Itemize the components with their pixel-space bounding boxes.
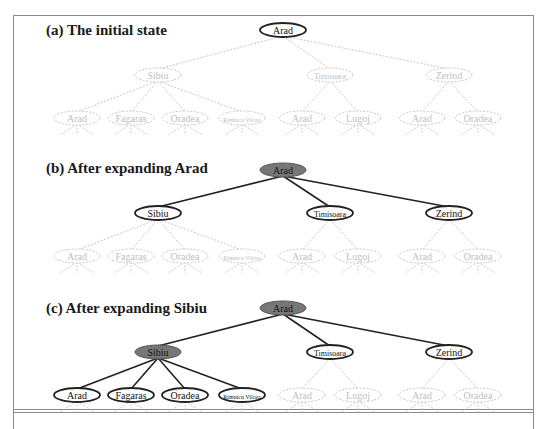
node-label: Zerind (436, 347, 463, 358)
tree-edge (302, 219, 330, 250)
tree-edge (158, 314, 283, 346)
tree-edge (341, 124, 358, 135)
node-label: Zerind (436, 208, 463, 219)
node-label: Oradea (171, 390, 200, 401)
tree-edge (168, 124, 185, 135)
tree-edge (405, 401, 422, 412)
node-zerind-oradea: Oradea (455, 388, 501, 402)
tree-edge (285, 401, 302, 412)
tree-edge (330, 358, 358, 389)
node-sibiu-arad: Arad (54, 249, 100, 263)
tree-edge (341, 262, 358, 273)
tree-edge (242, 262, 259, 273)
tree-edge (461, 401, 478, 412)
node-label: Oradea (171, 113, 200, 124)
tree-edge (302, 262, 319, 273)
node-sibiu-rimnicu-vilcea: Rimnicu Vilcea (219, 111, 265, 125)
tree-edge (225, 262, 242, 273)
node-label: Timisoara (314, 72, 347, 81)
node-label: Arad (273, 303, 293, 314)
tree-edge (461, 124, 478, 135)
node-label: Arad (412, 113, 432, 124)
tree-edge (405, 262, 422, 273)
node-label: Rimnicu Vilcea (223, 394, 261, 400)
node-label: Arad (292, 390, 312, 401)
node-zerind: Zerind (426, 68, 472, 82)
tree-edge (77, 219, 158, 250)
node-zerind: Zerind (426, 345, 472, 359)
node-zerind: Zerind (426, 206, 472, 220)
tree-edge (302, 401, 319, 412)
tree-edge (330, 219, 358, 250)
node-sibiu-arad: Arad (54, 111, 100, 125)
tree-edge (168, 262, 185, 273)
node-zerind-arad: Arad (399, 388, 445, 402)
tree-edge (158, 36, 283, 69)
node-sibiu-fagaras: Fagaras (108, 111, 154, 125)
node-label: Lugoj (346, 251, 370, 262)
node-timisoara-lugoj: Lugoj (335, 249, 381, 263)
node-label: Lugoj (346, 390, 370, 401)
node-sibiu: Sibiu (135, 345, 181, 359)
panel-b-tree: AradSibiuAradFagarasOradeaRimnicu Vilcea… (54, 163, 501, 273)
tree-edge (158, 176, 283, 207)
node-label: Timisoara (314, 210, 347, 219)
node-label: Fagaras (115, 390, 146, 401)
node-label: Sibiu (147, 347, 168, 358)
tree-edge (285, 262, 302, 273)
node-sibiu: Sibiu (135, 206, 181, 220)
tree-edge (478, 262, 495, 273)
tree-edge (302, 124, 319, 135)
tree-edge (422, 358, 449, 389)
node-root-arad: Arad (260, 163, 306, 177)
node-label: Arad (292, 113, 312, 124)
tree-edge (478, 124, 495, 135)
node-label: Arad (67, 390, 87, 401)
tree-edge (283, 36, 449, 69)
tree-edge (449, 358, 478, 389)
tree-edge (358, 401, 375, 412)
node-label: Oradea (464, 390, 493, 401)
tree-edge (422, 124, 439, 135)
node-sibiu-fagaras: Fagaras (108, 388, 154, 402)
tree-edge (422, 81, 449, 112)
node-sibiu-oradea: Oradea (162, 249, 208, 263)
tree-edge (358, 124, 375, 135)
tree-edge (449, 219, 478, 250)
node-root-arad: Arad (260, 301, 306, 315)
node-sibiu-oradea: Oradea (162, 388, 208, 402)
node-label: Zerind (436, 70, 463, 81)
tree-edge (302, 81, 330, 112)
tree-edge (285, 124, 302, 135)
node-label: Arad (412, 251, 432, 262)
node-label: Fagaras (115, 113, 146, 124)
tree-edge (60, 124, 77, 135)
tree-edge (114, 262, 131, 273)
tree-edge (77, 81, 158, 112)
tree-edge (242, 124, 259, 135)
node-timisoara-arad: Arad (279, 249, 325, 263)
node-sibiu-arad: Arad (54, 388, 100, 402)
tree-edge (283, 36, 330, 69)
node-timisoara: Timisoara (307, 345, 353, 359)
tree-edge (422, 401, 439, 412)
node-label: Sibiu (147, 70, 168, 81)
node-zerind-oradea: Oradea (455, 249, 501, 263)
node-label: Arad (67, 251, 87, 262)
tree-edge (158, 81, 242, 112)
node-sibiu-oradea: Oradea (162, 111, 208, 125)
node-zerind-arad: Arad (399, 249, 445, 263)
tree-edge (225, 124, 242, 135)
node-label: Oradea (171, 251, 200, 262)
tree-edge (341, 401, 358, 412)
node-zerind-arad: Arad (399, 111, 445, 125)
node-label: Arad (273, 165, 293, 176)
node-label: Oradea (464, 251, 493, 262)
tree-edge (77, 358, 158, 389)
tree-edge (358, 262, 375, 273)
node-label: Fagaras (115, 251, 146, 262)
tree-edge (478, 401, 495, 412)
node-timisoara: Timisoara (307, 68, 353, 82)
node-timisoara-arad: Arad (279, 111, 325, 125)
node-label: Oradea (464, 113, 493, 124)
